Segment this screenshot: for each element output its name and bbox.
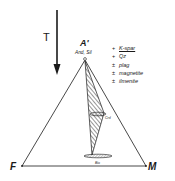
- legend-item: +Qz: [112, 52, 143, 60]
- legend-label: plag: [119, 62, 129, 68]
- apex-a-point: [84, 58, 87, 61]
- legend-item: +K-spar: [112, 44, 143, 52]
- legend-symbol: +: [112, 52, 119, 60]
- bio-phase-field: [84, 154, 112, 158]
- afm-diagram: T A' And, Sil F M Crd Bio: [0, 0, 175, 181]
- bio-label: Bio: [95, 161, 100, 165]
- legend-item: ±ilmenite: [112, 77, 143, 85]
- legend-symbol: ±: [112, 61, 119, 69]
- apex-top-label: A': [79, 38, 89, 48]
- tie-triangle: [85, 61, 104, 155]
- apex-m-point: [145, 165, 147, 167]
- legend-symbol: ±: [112, 69, 119, 77]
- legend-item: ±magnetite: [112, 69, 143, 77]
- legend-label: Qz: [119, 53, 126, 59]
- legend-symbol: +: [112, 44, 119, 52]
- apex-right-label: M: [148, 161, 157, 172]
- apex-f-point: [21, 165, 23, 167]
- apex-left-label: F: [10, 161, 17, 172]
- crd-label: Crd: [105, 116, 112, 120]
- legend-symbol: ±: [112, 77, 119, 85]
- legend-label: ilmenite: [119, 78, 138, 84]
- crd-phase-field: [90, 112, 106, 116]
- legend-label: K-spar: [119, 45, 135, 51]
- temperature-label: T: [43, 31, 50, 43]
- legend-label: magnetite: [119, 70, 143, 76]
- temperature-arrow: [54, 10, 61, 75]
- apex-top-sublabel: And, Sil: [74, 50, 92, 55]
- legend-item: ±plag: [112, 61, 143, 69]
- mineral-legend: +K-spar +Qz ±plag ±magnetite ±ilmenite: [112, 44, 143, 85]
